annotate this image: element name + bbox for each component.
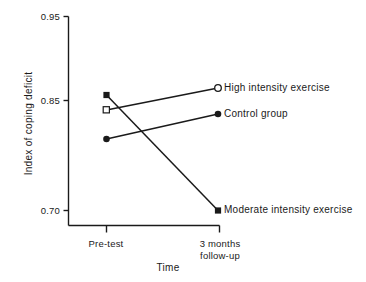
x-axis-title: Time	[108, 262, 228, 273]
y-axis-title: Index of coping deficit	[23, 44, 34, 204]
series-label-high-intensity-exercise: High intensity exercise	[224, 82, 330, 93]
y-axis-ticks	[64, 17, 69, 211]
series-line-control-group	[107, 114, 219, 139]
marker-open-square-high-intensity-pre-test	[103, 107, 109, 113]
x-tick-label-3-months: 3 months follow-up	[180, 238, 260, 261]
marker-filled-square-moderate-pre-test	[103, 92, 109, 98]
series-moderate-intensity-exercise	[103, 92, 221, 214]
series-line-moderate-intensity-exercise	[107, 95, 219, 211]
y-tick-label-2: 0.70	[20, 205, 60, 216]
x-tick-label-3-months-line2: follow-up	[180, 250, 260, 262]
axis-lines	[69, 17, 220, 226]
series-label-moderate-intensity-exercise: Moderate intensity exercise	[224, 204, 352, 215]
series-line-high-intensity-exercise	[107, 88, 219, 110]
chart-figure: 0.95 0.85 0.70 Pre-test 3 months follow-…	[0, 0, 366, 282]
marker-filled-circle-control-3-months	[215, 111, 222, 118]
marker-open-circle-high-intensity-3-months	[215, 85, 222, 92]
series-label-control-group: Control group	[224, 108, 288, 119]
y-tick-label-0: 0.95	[20, 11, 60, 22]
series-high-intensity-exercise	[103, 85, 221, 113]
marker-filled-square-moderate-3-months	[215, 207, 221, 213]
x-axis-ticks	[107, 226, 220, 233]
marker-filled-circle-control-pre-test	[103, 136, 110, 143]
series-control-group	[103, 111, 221, 143]
x-tick-label-pre-test: Pre-test	[66, 238, 146, 250]
x-tick-label-3-months-line1: 3 months	[180, 238, 260, 250]
